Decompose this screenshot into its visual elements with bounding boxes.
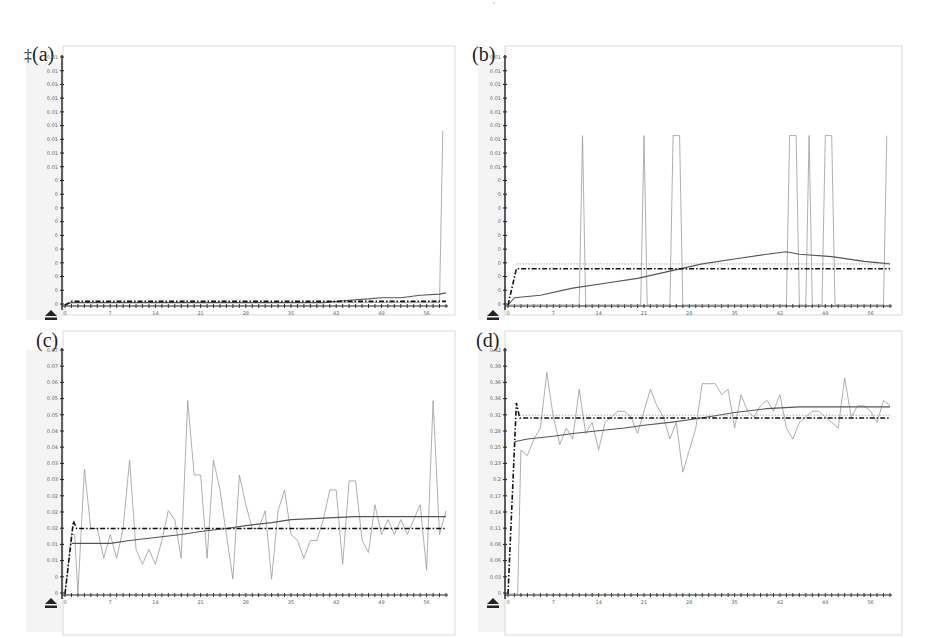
y-tick-label: 0.03: [490, 574, 501, 580]
x-tick-label: 49: [822, 599, 828, 605]
y-tick-label: 0: [498, 590, 501, 596]
x-tick-label: 0: [506, 599, 509, 605]
y-tick-label: 0.28: [490, 428, 501, 434]
y-tick-label: 0.31: [490, 412, 501, 418]
y-tick-label: 0.11: [490, 525, 501, 531]
x-tick-label: 7: [552, 599, 555, 605]
y-tick-label: 0.36: [490, 379, 501, 385]
panel-d: (d) 00.030.060.080.110.140.170.20.230.25…: [0, 0, 942, 638]
x-tick-label: 56: [867, 599, 873, 605]
y-tick-label: 0.39: [490, 363, 501, 369]
y-tick-label: 0.25: [490, 444, 501, 450]
y-tick-label: 0.17: [490, 493, 501, 499]
y-tick-label: 0.42: [490, 347, 501, 353]
y-tick-label: 0.23: [490, 460, 501, 466]
chart-d: 00.030.060.080.110.140.170.20.230.250.28…: [0, 0, 942, 638]
x-tick-label: 21: [641, 599, 647, 605]
x-tick-label: 35: [731, 599, 737, 605]
plot-frame: [505, 331, 902, 635]
y-tick-label: 0.08: [490, 541, 501, 547]
y-tick-label: 0.34: [490, 395, 501, 401]
y-tick-label: 0.14: [490, 509, 501, 515]
x-tick-label: 14: [595, 599, 601, 605]
series-observed: [508, 373, 890, 594]
x-tick-label: 28: [686, 599, 692, 605]
x-tick-label: 42: [777, 599, 783, 605]
eject-icon[interactable]: [487, 598, 499, 608]
y-tick-label: 0.06: [490, 557, 501, 563]
y-tick-label: 0.2: [493, 476, 501, 482]
